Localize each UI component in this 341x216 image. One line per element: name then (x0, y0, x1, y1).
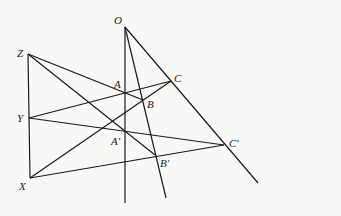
label-Z: Z (17, 47, 24, 59)
label-C: C (174, 72, 182, 84)
desargues-diagram: O Z Y X A B C A' B' C' (0, 0, 341, 216)
ray-O-C (125, 27, 258, 183)
label-A-prime: A' (110, 135, 121, 147)
line-XZ (28, 54, 30, 178)
ray-O-B (125, 27, 166, 198)
diagram-svg: O Z Y X A B C A' B' C' (0, 0, 341, 216)
label-A: A (113, 78, 121, 90)
label-Y: Y (17, 112, 25, 124)
label-B: B (147, 98, 154, 110)
line-YC-prime (29, 118, 224, 145)
line-XC-prime (30, 145, 224, 178)
label-X: X (18, 180, 27, 192)
label-O: O (114, 14, 122, 26)
label-C-prime: C' (229, 137, 239, 149)
label-B-prime: B' (160, 157, 170, 169)
